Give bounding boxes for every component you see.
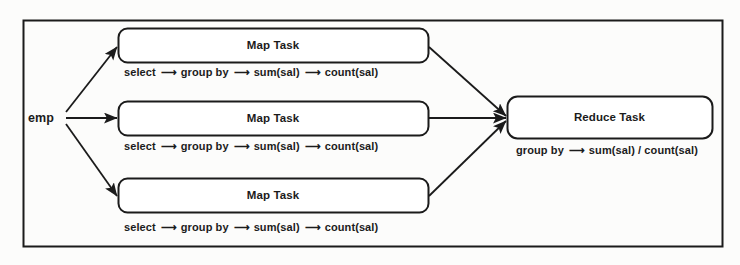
arrow-right-icon: ⟶ [159,66,178,77]
arrow-right-icon: ⟶ [232,140,251,151]
edge-emp-to-map-3 [66,124,117,196]
arrow-right-icon: ⟶ [303,221,322,232]
edge-map-1-to-reduce [429,47,506,116]
pipeline-step: sum(sal) [251,140,303,152]
pipeline-step: sum(sal) [251,66,303,78]
pipeline-step: count(sal) [322,140,382,152]
arrow-right-icon: ⟶ [159,140,178,151]
pipeline-step: count(sal) [322,66,382,78]
edge-emp-to-map-1 [66,47,117,112]
reduce-task-title: Reduce Task [507,111,712,123]
map-task-2-title: Map Task [118,112,428,124]
map-task-1-pipeline: select ⟶ group by ⟶ sum(sal) ⟶ count(sal… [121,66,381,78]
diagram-canvas: emp Map Task select ⟶ group by ⟶ sum(sal… [0,0,740,265]
edge-map-3-to-reduce [429,121,506,196]
pipeline-step: select [121,221,159,233]
pipeline-step: select [121,66,159,78]
pipeline-step: sum(sal) [251,221,303,233]
pipeline-step: group by [178,140,232,152]
map-task-3-pipeline: select ⟶ group by ⟶ sum(sal) ⟶ count(sal… [121,221,381,233]
pipeline-step: group by [178,221,232,233]
map-task-3-title: Map Task [118,189,428,201]
pipeline-step: group by [178,66,232,78]
arrow-right-icon: ⟶ [232,221,251,232]
pipeline-step: count(sal) [322,221,382,233]
arrow-right-icon: ⟶ [159,221,178,232]
source-node-label: emp [28,111,54,125]
arrow-right-icon: ⟶ [303,140,322,151]
pipeline-step: group by [513,144,567,156]
reduce-task-pipeline: group by ⟶ sum(sal) / count(sal) [513,144,701,156]
pipeline-step: sum(sal) / count(sal) [586,144,701,156]
map-task-2-pipeline: select ⟶ group by ⟶ sum(sal) ⟶ count(sal… [121,140,381,152]
pipeline-step: select [121,140,159,152]
arrow-right-icon: ⟶ [567,144,586,155]
arrow-right-icon: ⟶ [303,66,322,77]
map-task-1-title: Map Task [118,39,428,51]
arrow-right-icon: ⟶ [232,66,251,77]
